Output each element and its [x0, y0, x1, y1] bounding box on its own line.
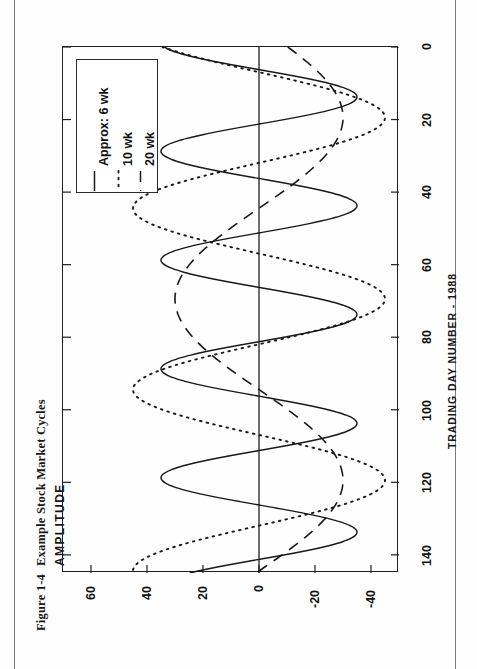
x-tick-label: 120 — [420, 472, 434, 493]
legend-label-2: 10 wk — [121, 132, 135, 166]
scanned-page: Figure 1-4 Example Stock Market Cycles A… — [0, 0, 477, 669]
legend-swatch-2 — [115, 170, 122, 192]
legend-label-1: Approx: 6 wk — [97, 88, 111, 167]
x-tick-label: 60 — [420, 258, 434, 272]
x-tick-label: 0 — [420, 43, 434, 50]
x-axis-title: TRADING DAY NUMBER - 1988 — [446, 273, 458, 449]
x-tick-label: 80 — [420, 330, 434, 344]
y-tick-label: 20 — [196, 586, 210, 600]
legend-label-3: 20 wk — [143, 132, 157, 166]
y-tick-label: 60 — [84, 586, 98, 600]
y-tick-label: 40 — [140, 586, 154, 600]
legend-swatch-1 — [91, 170, 98, 192]
x-tick-label: 20 — [420, 113, 434, 127]
y-tick-label: -20 — [308, 590, 322, 608]
chart-legend: Approx: 6 wk10 wk20 wk — [76, 59, 158, 193]
figure-1-4: Figure 1-4 Example Stock Market Cycles A… — [0, 0, 477, 669]
x-tick-label: 100 — [420, 400, 434, 421]
legend-swatch-3 — [137, 170, 144, 192]
x-tick-label: 40 — [420, 185, 434, 199]
y-tick-label: -40 — [364, 590, 378, 608]
figure-title: Example Stock Market Cycles — [34, 399, 49, 566]
figure-number: Figure 1-4 — [34, 574, 49, 631]
x-tick-label: 140 — [420, 545, 434, 566]
y-tick-label: 0 — [252, 585, 266, 592]
